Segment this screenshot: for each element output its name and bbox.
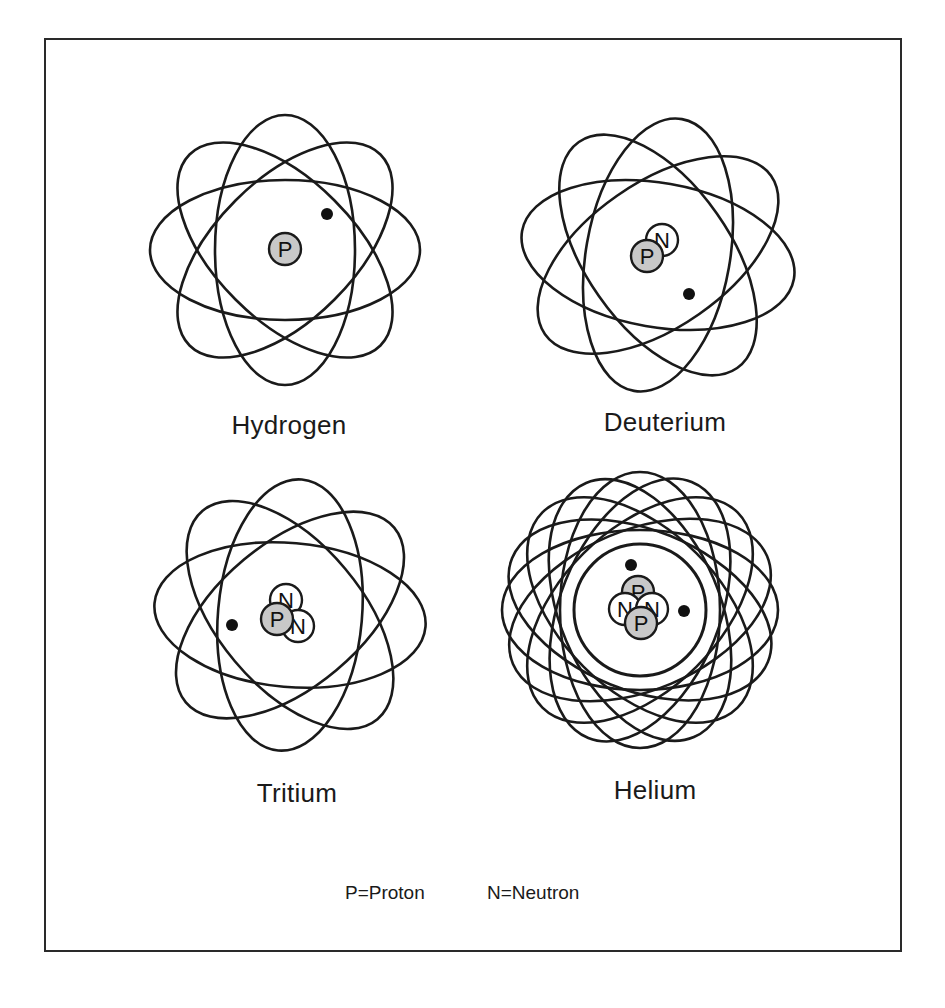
deuterium-label: Deuterium xyxy=(604,407,727,438)
helium-atom-icon: PNNP xyxy=(482,452,799,769)
electron-icon xyxy=(321,208,333,220)
electron-icon xyxy=(683,288,695,300)
deuterium-atom-icon: NP xyxy=(504,101,813,410)
legend-proton: P=Proton xyxy=(345,882,425,904)
proton-symbol: P xyxy=(278,237,293,262)
proton-symbol: P xyxy=(640,244,655,269)
legend-neutron: N=Neutron xyxy=(487,882,579,904)
atom-diagram-figure: P NP NNP PNNP Hydrogen Deuterium Tritium… xyxy=(0,0,945,1008)
proton-symbol: P xyxy=(634,611,649,636)
tritium-atom-icon: NNP xyxy=(140,465,441,766)
proton-symbol: P xyxy=(270,607,285,632)
electron-icon xyxy=(625,559,637,571)
helium-label: Helium xyxy=(614,775,697,806)
electron-icon xyxy=(226,619,238,631)
electron-icon xyxy=(678,605,690,617)
atoms-drawing: P NP NNP PNNP xyxy=(0,0,945,1008)
hydrogen-atom-icon: P xyxy=(140,105,430,395)
hydrogen-label: Hydrogen xyxy=(231,410,346,441)
tritium-label: Tritium xyxy=(257,778,338,809)
